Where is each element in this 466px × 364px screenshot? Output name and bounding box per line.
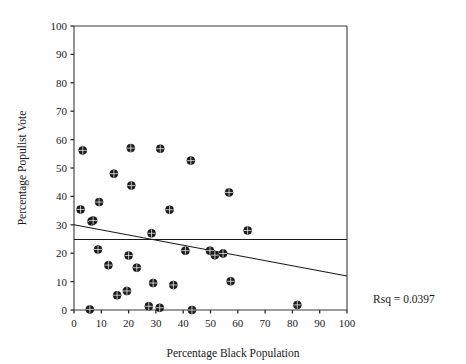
- data-point: [89, 217, 97, 225]
- data-point: [156, 145, 164, 153]
- x-axis-tick-labels: 0102030405060708090100: [71, 317, 356, 329]
- data-point: [104, 261, 112, 269]
- x-tick-label: 30: [150, 317, 162, 329]
- y-tick-label: 20: [56, 247, 68, 259]
- x-tick-label: 60: [232, 317, 244, 329]
- data-point: [219, 249, 227, 257]
- plot-canvas: 0102030405060708090100 01020304050607080…: [0, 0, 466, 364]
- data-point: [95, 198, 103, 206]
- data-point: [127, 144, 135, 152]
- data-point-markers: [77, 144, 302, 314]
- x-tick-label: 70: [260, 317, 272, 329]
- data-point: [123, 287, 131, 295]
- y-tick-label: 70: [56, 105, 68, 117]
- data-point: [227, 277, 235, 285]
- x-tick-label: 80: [287, 317, 299, 329]
- x-axis-label: Percentage Black Population: [167, 347, 300, 360]
- y-tick-label: 30: [56, 219, 68, 231]
- data-point: [127, 182, 135, 190]
- data-point: [293, 301, 301, 309]
- y-tick-label: 10: [56, 276, 68, 288]
- y-tick-label: 60: [56, 134, 68, 146]
- x-tick-label: 40: [178, 317, 190, 329]
- rsq-annotation: Rsq = 0.0397: [373, 293, 435, 306]
- data-point: [79, 146, 87, 154]
- data-point: [181, 247, 189, 255]
- scatter-plot-figure: 0102030405060708090100 01020304050607080…: [0, 0, 466, 364]
- data-point: [169, 281, 177, 289]
- data-point: [188, 306, 196, 314]
- data-point: [77, 205, 85, 213]
- data-point: [156, 304, 164, 312]
- data-point: [148, 229, 156, 237]
- y-tick-label: 0: [62, 304, 68, 316]
- data-point: [211, 251, 219, 259]
- data-point: [244, 226, 252, 234]
- y-axis-tick-labels: 0102030405060708090100: [51, 20, 68, 316]
- x-tick-label: 20: [123, 317, 135, 329]
- data-point: [94, 246, 102, 254]
- y-tick-label: 50: [56, 162, 68, 174]
- x-tick-label: 90: [314, 317, 326, 329]
- data-point: [166, 206, 174, 214]
- data-point: [225, 188, 233, 196]
- data-point: [113, 291, 121, 299]
- x-tick-label: 0: [71, 317, 77, 329]
- x-tick-label: 100: [339, 317, 356, 329]
- data-point: [110, 170, 118, 178]
- plot-frame: [74, 26, 347, 310]
- y-axis-label: Percentage Populist Vote: [16, 111, 29, 226]
- data-point: [86, 305, 94, 313]
- y-tick-label: 40: [56, 190, 68, 202]
- x-tick-label: 50: [205, 317, 217, 329]
- data-point: [149, 279, 157, 287]
- x-tick-label: 10: [96, 317, 108, 329]
- data-point: [187, 157, 195, 165]
- y-tick-label: 80: [56, 77, 68, 89]
- y-tick-label: 90: [56, 48, 68, 60]
- data-point: [145, 302, 153, 310]
- data-point: [133, 264, 141, 272]
- y-tick-label: 100: [51, 20, 68, 32]
- data-point: [125, 251, 133, 259]
